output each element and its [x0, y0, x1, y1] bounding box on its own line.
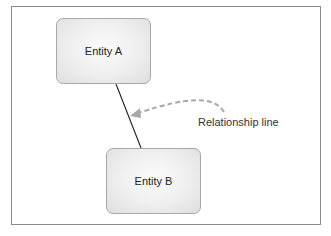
- entity-b-box[interactable]: Entity B: [106, 148, 201, 214]
- entity-b-label: Entity B: [135, 175, 173, 187]
- annotation-dashed-arrow: [138, 100, 224, 113]
- entity-a-label: Entity A: [85, 45, 122, 57]
- entity-a-box[interactable]: Entity A: [56, 18, 151, 84]
- relationship-line-annotation: Relationship line: [198, 116, 279, 128]
- arrowhead-icon: [130, 108, 141, 118]
